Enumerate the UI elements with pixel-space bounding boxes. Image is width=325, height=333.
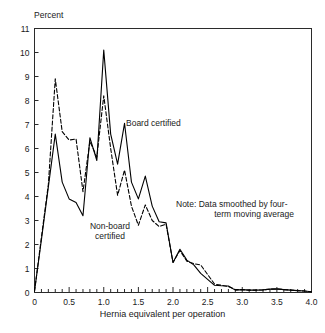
series-line-board-certified [35, 50, 312, 292]
plot-area: 01234567891011 00.51.01.52.02.53.03.54.0 [0, 0, 325, 333]
y-tick-label: 4 [25, 192, 30, 202]
x-axis-tick-labels: 00.51.01.52.02.53.03.54.0 [32, 297, 318, 307]
y-tick-label: 9 [25, 72, 30, 82]
y-tick-label: 10 [20, 48, 30, 58]
non-board-line2: certified [95, 231, 125, 241]
board-certified-label: Board certified [126, 118, 181, 128]
x-tick-label: 1.5 [132, 297, 144, 307]
x-tick-label: 0.5 [63, 297, 75, 307]
data-series-lines [35, 50, 312, 292]
x-tick-label: 2.5 [202, 297, 214, 307]
y-tick-label: 11 [21, 24, 30, 34]
non-board-certified-label: Non-boardcertified [79, 221, 141, 241]
y-tick-label: 7 [25, 120, 30, 130]
y-tick-label: 2 [25, 240, 30, 250]
x-tick-label: 3.0 [236, 297, 248, 307]
y-tick-label: 3 [25, 216, 30, 226]
y-tick-label: 5 [25, 168, 30, 178]
x-axis-label: Hernia equivalent per operation [0, 309, 325, 319]
y-tick-label: 8 [25, 96, 30, 106]
non-board-line1: Non-board [90, 221, 130, 231]
note-line1: Note: Data smoothed by four- [176, 199, 302, 209]
note-label: Note: Data smoothed by four-term moving … [176, 199, 302, 219]
axes-frame [35, 29, 312, 293]
chart-figure: Percent 01234567891011 00.51.01.52.02.53… [0, 0, 325, 333]
x-tick-label: 3.5 [271, 297, 283, 307]
x-tick-label: 4.0 [306, 297, 318, 307]
x-axis-ticks [35, 287, 312, 293]
y-axis-tick-labels: 01234567891011 [20, 24, 30, 298]
x-tick-label: 2.0 [167, 297, 179, 307]
y-axis-ticks [35, 29, 39, 293]
y-tick-label: 1 [25, 264, 30, 274]
y-tick-label: 0 [25, 288, 30, 298]
y-tick-label: 6 [25, 144, 30, 154]
x-tick-label: 1.0 [98, 297, 110, 307]
x-tick-label: 0 [32, 297, 37, 307]
note-line2: term moving average [176, 209, 302, 219]
